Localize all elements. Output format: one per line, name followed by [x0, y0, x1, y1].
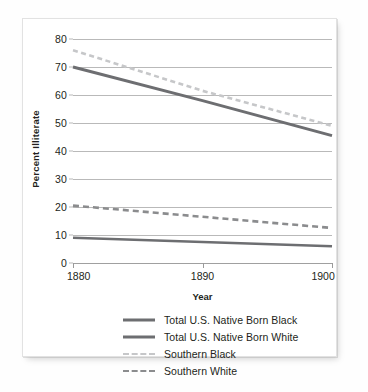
- x-tick-mark: [73, 263, 74, 268]
- y-tick-label: 70: [55, 61, 67, 73]
- legend-label: Total U.S. Native Born White: [164, 331, 298, 343]
- legend-item: Southern White: [23, 362, 336, 379]
- series-line: [73, 238, 332, 246]
- y-tick-label: 40: [55, 145, 67, 157]
- legend-swatch-icon: [123, 314, 155, 325]
- legend-item: Southern Black: [23, 345, 336, 362]
- legend-swatch-icon: [123, 365, 155, 376]
- legend-item: Total U.S. Native Born White: [23, 328, 336, 345]
- series-line: [73, 50, 332, 126]
- series-line: [73, 206, 332, 228]
- legend-item: Total U.S. Native Born Black: [23, 311, 336, 328]
- chart-card: Percent Illiterate 01020304050607080 188…: [22, 18, 337, 357]
- x-tick-label: 1900: [311, 270, 334, 282]
- series-line: [73, 67, 332, 136]
- legend-label: Southern Black: [164, 348, 236, 360]
- plot-area: 01020304050607080 188018901900: [73, 39, 332, 263]
- chart-legend: Total U.S. Native Born BlackTotal U.S. N…: [23, 311, 336, 379]
- legend-swatch-icon: [123, 331, 155, 342]
- y-tick-label: 30: [55, 173, 67, 185]
- x-axis-title: Year: [73, 291, 332, 302]
- series-lines: [73, 39, 332, 263]
- x-tick-mark: [332, 263, 333, 268]
- x-tick-mark: [203, 263, 204, 268]
- y-tick-label: 80: [55, 33, 67, 45]
- y-tick-label: 0: [61, 257, 67, 269]
- page-root: Percent Illiterate 01020304050607080 188…: [0, 0, 368, 392]
- y-axis-title: Percent Illiterate: [30, 110, 41, 188]
- x-tick-label: 1880: [67, 270, 90, 282]
- legend-label: Total U.S. Native Born Black: [164, 314, 297, 326]
- y-tick-label: 50: [55, 117, 67, 129]
- y-tick-label: 20: [55, 201, 67, 213]
- x-tick-label: 1890: [191, 270, 214, 282]
- y-tick-label: 60: [55, 89, 67, 101]
- legend-label: Southern White: [164, 365, 237, 377]
- y-tick-label: 10: [55, 229, 67, 241]
- legend-swatch-icon: [123, 348, 155, 359]
